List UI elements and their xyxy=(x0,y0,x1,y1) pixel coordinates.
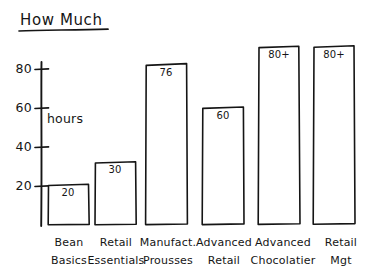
bar-value-label-3: 76 xyxy=(159,67,172,78)
x-category-label-1-line1: Bean xyxy=(55,236,84,249)
x-category-label-2-line2: Essentials xyxy=(87,254,144,267)
x-category-label-1-line2: Basics xyxy=(51,254,87,267)
y-tick-label-40: 40 xyxy=(15,139,32,154)
chart-title: How Much xyxy=(20,11,103,29)
chart-canvas: How Much 20 40 60 80 hours 20 30 76 60 8… xyxy=(0,0,376,279)
bar-retail-mgt xyxy=(313,46,355,225)
y-tick-label-20: 20 xyxy=(15,178,32,193)
x-category-label-4-line2: Retail xyxy=(208,254,240,267)
bar-value-label-4: 60 xyxy=(216,110,229,121)
y-axis-label: hours xyxy=(47,111,83,126)
x-category-label-6-line1: Retail xyxy=(325,236,357,249)
hand-drawn-bar-chart: How Much 20 40 60 80 hours 20 30 76 60 8… xyxy=(0,0,376,279)
y-tick-mark-60 xyxy=(35,108,49,109)
x-category-label-3-line1: Manufact. xyxy=(140,236,196,249)
y-tick-label-80: 80 xyxy=(15,61,32,76)
bar-value-label-5: 80+ xyxy=(268,49,290,60)
x-category-label-5-line1: Advanced xyxy=(255,236,311,249)
x-category-label-6-line2: Mgt xyxy=(330,254,352,267)
x-category-label-2-line1: Retail xyxy=(100,236,132,249)
y-tick-mark-20 xyxy=(35,186,49,187)
bar-manufact-prousses xyxy=(146,64,188,225)
bar-value-label-2: 30 xyxy=(108,164,121,175)
y-tick-mark-80 xyxy=(35,69,49,70)
bar-value-label-6: 80+ xyxy=(323,49,345,60)
x-category-label-3-line2: Prousses xyxy=(143,254,193,267)
title-underline-icon xyxy=(19,29,108,31)
bar-value-label-1: 20 xyxy=(61,187,74,198)
x-category-label-5-line2: Chocolatier xyxy=(251,254,316,267)
bar-advanced-retail xyxy=(202,107,244,225)
y-tick-label-60: 60 xyxy=(15,100,32,115)
x-category-label-4-line1: Advanced xyxy=(196,236,252,249)
y-tick-mark-40 xyxy=(35,147,49,148)
bar-advanced-chocolatier xyxy=(258,46,300,224)
